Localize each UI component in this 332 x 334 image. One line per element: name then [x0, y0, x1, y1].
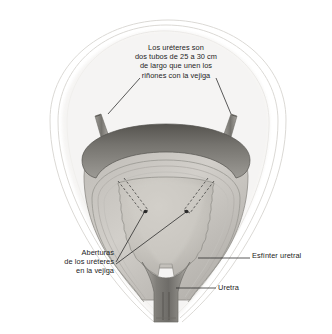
annotation-urethral-sphincter: Esfínter uretral: [252, 251, 332, 260]
annotation-ureters-note: Los uréteres son dos tubos de 25 a 30 cm…: [116, 43, 236, 80]
annotation-ureteral-openings: Aberturas de los uréteres en la vejiga: [22, 248, 114, 276]
annotation-urethra: Uretra: [218, 283, 278, 292]
